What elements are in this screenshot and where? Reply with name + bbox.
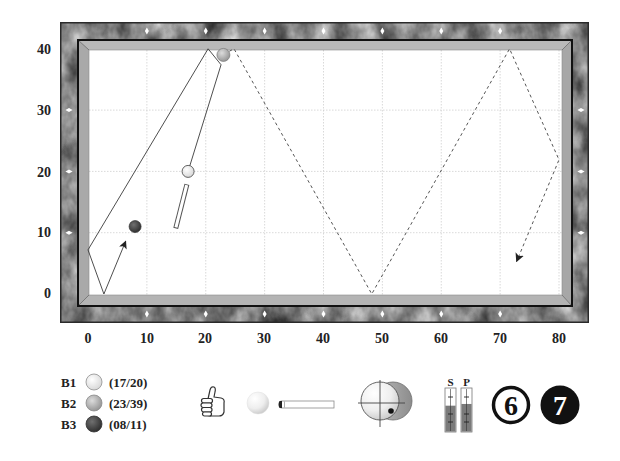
gauges: S P (445, 376, 472, 432)
x-tick-label: 30 (257, 331, 271, 346)
legend-ball-b3-icon (86, 416, 102, 432)
y-axis-labels: 40 30 20 10 0 (37, 42, 51, 301)
cue-stick-icon (279, 401, 335, 408)
hit-point-dot[interactable] (388, 408, 394, 414)
gauge-p: P (461, 376, 472, 432)
y-tick-label: 10 (37, 225, 51, 240)
ball-legend: B1 (17/20) B2 (23/39) B3 (08/11) (61, 374, 147, 432)
thumbs-up-icon[interactable] (201, 387, 224, 416)
cushion-right (562, 40, 572, 306)
legend-row-b3: B3 (08/11) (61, 416, 147, 432)
ball-b1[interactable] (182, 165, 194, 177)
legend-ball-label: B1 (61, 375, 76, 390)
legend-ball-label: B2 (61, 396, 76, 411)
x-tick-label: 40 (316, 331, 330, 346)
counter-value: 6 (504, 390, 518, 421)
x-tick-label: 70 (493, 331, 507, 346)
spin-hit-point-diagram[interactable] (358, 380, 412, 427)
billiard-table (60, 22, 589, 323)
ball-b2[interactable] (217, 48, 230, 61)
legend-ball-label: B3 (61, 417, 77, 432)
x-tick-label: 60 (434, 331, 448, 346)
gauge-s: S (445, 376, 456, 432)
gauge-label: S (447, 376, 453, 388)
y-tick-label: 20 (37, 165, 51, 180)
x-axis-labels: 0 10 20 30 40 50 60 70 80 (85, 331, 567, 346)
x-tick-label: 10 (140, 331, 154, 346)
y-tick-label: 0 (44, 286, 51, 301)
cushion-bottom (78, 295, 572, 306)
y-tick-label: 40 (37, 42, 51, 57)
x-tick-label: 50 (375, 331, 389, 346)
legend-row-b1: B1 (17/20) (61, 374, 147, 390)
billiards-shot-diagram: 0 10 20 30 40 50 60 70 80 40 30 20 10 0 … (0, 0, 620, 461)
counter-filled: 7 (541, 386, 580, 425)
legend-ball-coords: (23/39) (109, 396, 147, 411)
x-tick-label: 80 (552, 331, 566, 346)
counter-value: 7 (553, 390, 567, 421)
cushion-left (78, 40, 89, 306)
gauge-label: P (463, 376, 470, 388)
legend-ball-coords: (17/20) (109, 375, 147, 390)
diagram-canvas: 0 10 20 30 40 50 60 70 80 40 30 20 10 0 … (0, 0, 620, 461)
legend-row-b2: B2 (23/39) (61, 395, 147, 411)
legend-ball-b2-icon (86, 395, 102, 411)
x-tick-label: 0 (85, 331, 92, 346)
counter-outline: 6 (494, 388, 529, 423)
cushion-top (78, 40, 572, 50)
cue-ball-icon (247, 392, 269, 414)
y-tick-label: 30 (37, 103, 51, 118)
ball-b3[interactable] (129, 221, 141, 233)
legend-ball-coords: (08/11) (109, 417, 147, 432)
legend-ball-b1-icon (86, 374, 102, 390)
stroke-illustration (247, 392, 334, 414)
x-tick-label: 20 (198, 331, 212, 346)
playing-surface (89, 50, 562, 295)
